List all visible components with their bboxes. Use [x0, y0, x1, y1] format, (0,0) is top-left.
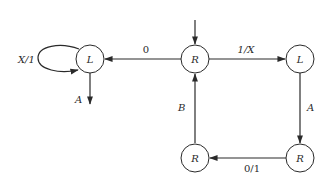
- edge-label-b: B: [177, 102, 185, 113]
- edge-label-0: 0: [143, 44, 149, 55]
- state-bottom-right-r: R: [286, 144, 314, 172]
- svg-text:R: R: [190, 54, 199, 65]
- svg-text:R: R: [190, 153, 199, 164]
- edge-label-0-1: 0/1: [244, 163, 260, 174]
- state-diagram: 0 1/X X/1 A A 0/1 B L R L R R: [0, 0, 331, 184]
- state-bottom-left-r: R: [181, 144, 209, 172]
- edge-label-a-left: A: [74, 94, 82, 105]
- edge-label-x-1: X/1: [17, 54, 35, 65]
- svg-text:L: L: [86, 54, 94, 65]
- svg-text:R: R: [295, 153, 304, 164]
- state-center-r: R: [181, 45, 209, 73]
- edge-label-a-right: A: [306, 102, 314, 113]
- state-left-l: L: [76, 45, 104, 73]
- state-right-l: L: [286, 45, 314, 73]
- edge-label-1-x: 1/X: [238, 44, 256, 55]
- self-loop-left: [38, 46, 79, 72]
- svg-text:L: L: [296, 54, 304, 65]
